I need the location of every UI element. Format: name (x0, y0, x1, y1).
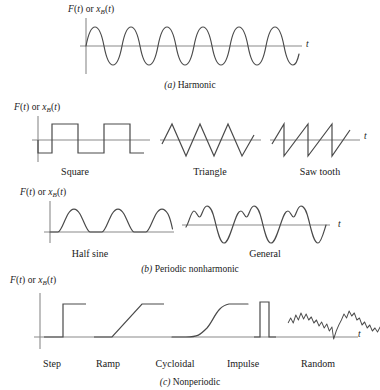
excitation-function-figure: F(t) or xB(t) t (a) Harmonic F(t) or xB(… (0, 0, 380, 390)
y-axis-label-halfsine: F(t) or xB(t) (20, 187, 66, 199)
caption-a: (a) Harmonic (0, 80, 380, 90)
label-impulse: Impulse (208, 358, 278, 369)
row-periodic-waves: F(t) or xB(t) Square Triangle t (0, 100, 380, 185)
t-axis-label-harmonic: t (306, 39, 309, 49)
plot-harmonic (60, 16, 310, 78)
plot-sawtooth (268, 114, 373, 166)
label-square: Square (40, 166, 110, 177)
t-axis-label-general: t (338, 219, 341, 229)
row-periodic-nonharmonic: F(t) or xB(t) Half sine t General (b) Pe… (0, 185, 380, 273)
t-axis-label-sawtooth: t (364, 131, 367, 141)
label-general: General (225, 248, 305, 259)
plot-nonperiodic-group (8, 287, 374, 353)
y-axis-label-nonperiodic: F(t) or xB(t) (10, 275, 56, 287)
plot-triangle (158, 114, 263, 166)
label-half-sine: Half sine (50, 248, 130, 259)
t-axis-label-nonperiodic: t (358, 329, 361, 339)
plot-square (8, 114, 153, 166)
label-cycloidal: Cycloidal (136, 358, 214, 369)
y-axis-label-square: F(t) or xB(t) (14, 102, 60, 114)
y-axis-label-harmonic: F(t) or xB(t) (68, 4, 114, 16)
label-random: Random (278, 358, 358, 369)
label-step: Step (22, 358, 82, 369)
label-sawtooth: Saw tooth (285, 166, 355, 177)
plot-general (180, 193, 340, 249)
plot-half-sine (14, 199, 179, 247)
caption-c: (c) Nonperiodic (0, 377, 380, 387)
row-nonperiodic: F(t) or xB(t) t Step Ramp (0, 273, 380, 390)
label-triangle: Triangle (175, 166, 245, 177)
label-ramp: Ramp (78, 358, 138, 369)
row-harmonic: F(t) or xB(t) t (a) Harmonic (0, 0, 380, 100)
